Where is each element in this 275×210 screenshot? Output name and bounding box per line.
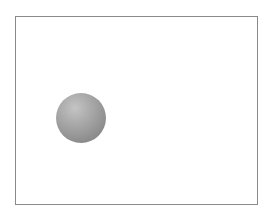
gray-sphere: [56, 93, 106, 143]
scene-frame: [15, 16, 258, 205]
scene-description: Gray shaded sphere inside a rectangular …: [0, 0, 1, 1]
